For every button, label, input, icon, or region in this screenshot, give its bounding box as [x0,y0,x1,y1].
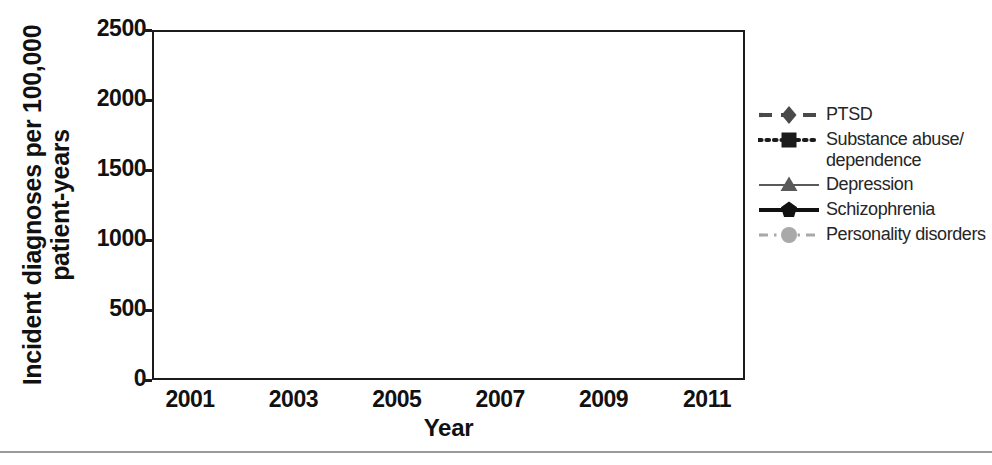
y-tick-label: 1500 [26,155,146,182]
x-axis-title: Year [152,414,745,442]
x-tick-label: 2001 [145,386,235,413]
x-tick-label: 2005 [352,386,442,413]
legend-item-ptsd[interactable]: PTSD [758,104,992,126]
chart-legend: PTSDSubstance abuse/dependenceDepression… [758,104,992,249]
x-tick-label: 2003 [248,386,338,413]
legend-label-line: Substance abuse/ [826,129,964,150]
legend-label-line: Personality disorders [826,224,986,245]
legend-swatch-icon [758,199,820,221]
y-tick-mark [143,169,152,172]
data-point-marker [782,133,797,148]
legend-swatch-icon [758,129,820,151]
y-tick-mark [143,379,152,382]
data-point-marker [782,106,797,124]
y-axis-title-line2: patient-years [46,25,74,386]
x-tick-label: 2009 [559,386,649,413]
y-tick-label: 2500 [26,15,146,42]
x-tick-label: 2011 [662,386,752,413]
y-tick-label: 0 [26,365,146,392]
data-point-marker [781,176,798,191]
legend-label-line: dependence [826,150,964,171]
legend-label: PTSD [820,104,872,125]
x-tick-label: 2007 [455,386,545,413]
plot-area [152,30,745,380]
y-axis-title: Incident diagnoses per 100,000 patient-y… [0,0,92,410]
y-tick-mark [143,309,152,312]
legend-item-depression[interactable]: Depression [758,174,992,196]
legend-label: Personality disorders [820,224,986,245]
legend-label-line: PTSD [826,104,872,125]
y-tick-label: 500 [26,295,146,322]
y-axis-title-line1: Incident diagnoses per 100,000 [18,25,46,386]
y-tick-mark [143,29,152,32]
data-point-marker [781,227,797,243]
plot-frame [152,30,745,380]
legend-label: Schizophrenia [820,199,935,220]
y-tick-label: 1000 [26,225,146,252]
legend-item-substance[interactable]: Substance abuse/dependence [758,129,992,171]
y-tick-mark [143,99,152,102]
legend-item-personality[interactable]: Personality disorders [758,224,992,246]
footer-divider [0,451,992,453]
legend-label-line: Schizophrenia [826,199,935,220]
chart-figure: Incident diagnoses per 100,000 patient-y… [0,0,992,465]
legend-label: Substance abuse/dependence [820,129,964,171]
legend-item-schizophrenia[interactable]: Schizophrenia [758,199,992,221]
legend-swatch-icon [758,224,820,246]
data-point-marker [781,201,797,216]
y-tick-mark [143,239,152,242]
legend-label-line: Depression [826,174,913,195]
legend-swatch-icon [758,104,820,126]
y-tick-label: 2000 [26,85,146,112]
legend-swatch-icon [758,174,820,196]
legend-label: Depression [820,174,913,195]
